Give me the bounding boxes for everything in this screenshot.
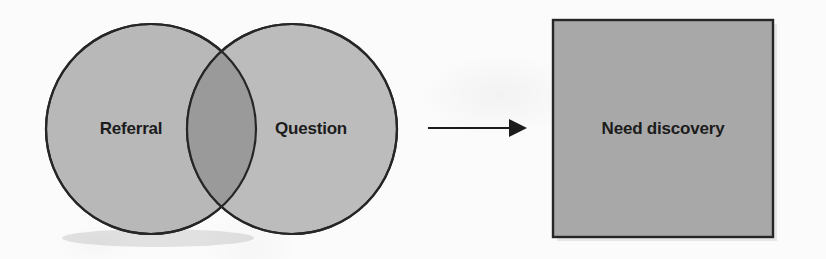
arrow-head-icon [509, 119, 527, 137]
venn-label-referral: Referral [100, 119, 163, 139]
leads-to-arrow [428, 119, 527, 137]
result-box-label: Need discovery [602, 119, 725, 139]
diagram-root: Referral Question Need discovery [0, 0, 826, 259]
venn-label-question: Question [275, 119, 347, 139]
